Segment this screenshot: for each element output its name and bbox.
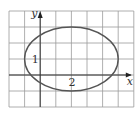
y-axis-arrow-icon xyxy=(38,11,43,18)
ellipse-graph-figure: x y 1 2 xyxy=(0,0,140,113)
x-axis-label: x xyxy=(127,75,134,88)
label-two: 2 xyxy=(68,76,75,89)
label-one: 1 xyxy=(32,53,39,66)
graph-canvas: x y 1 2 xyxy=(0,0,140,113)
grid-lines xyxy=(9,11,134,107)
y-axis-label: y xyxy=(30,7,38,20)
